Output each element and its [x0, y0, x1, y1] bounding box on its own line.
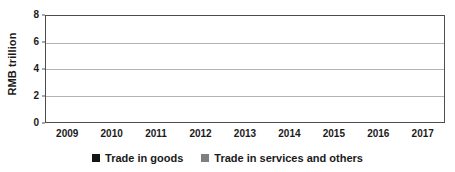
legend-item-trade-in-goods[interactable]: Trade in goods	[92, 152, 183, 164]
y-axis-ticks: 8 6 4 2 0	[24, 15, 42, 123]
bar-group-2013	[223, 16, 267, 122]
x-tick-label-2012: 2012	[178, 126, 222, 142]
y-tick-label-8: 8	[33, 10, 39, 20]
y-axis-title: RMB trillion	[6, 33, 18, 96]
x-tick-label-2015: 2015	[312, 126, 356, 142]
bar-group-2012	[179, 16, 223, 122]
bar-series-container	[46, 16, 444, 122]
bar-group-2014	[267, 16, 311, 122]
legend-item-trade-in-services-and-others[interactable]: Trade in services and others	[201, 152, 363, 164]
x-tick-label-2014: 2014	[267, 126, 311, 142]
y-tick-label-0: 0	[33, 118, 39, 128]
bar-group-2009	[46, 16, 90, 122]
y-tick-label-6: 6	[33, 37, 39, 47]
x-tick-label-2013: 2013	[223, 126, 267, 142]
legend-label-trade-in-services-and-others: Trade in services and others	[214, 152, 363, 164]
chart-legend: Trade in goods Trade in services and oth…	[0, 148, 455, 168]
bar-group-2015	[311, 16, 355, 122]
stacked-bar-chart: RMB trillion 8 6 4 2 0 20092010201120122…	[0, 0, 455, 172]
filled-square-icon	[92, 154, 100, 162]
x-axis-ticks: 200920102011201220132014201520162017	[45, 126, 445, 142]
x-tick-label-2011: 2011	[134, 126, 178, 142]
x-tick-label-2010: 2010	[89, 126, 133, 142]
bar-group-2017	[400, 16, 444, 122]
bar-group-2016	[356, 16, 400, 122]
x-tick-label-2009: 2009	[45, 126, 89, 142]
x-tick-label-2017: 2017	[401, 126, 445, 142]
y-tick-label-2: 2	[33, 91, 39, 101]
legend-label-trade-in-goods: Trade in goods	[105, 152, 183, 164]
plot-area	[45, 15, 445, 123]
y-axis-title-container: RMB trillion	[0, 0, 24, 128]
x-tick-label-2016: 2016	[356, 126, 400, 142]
bar-group-2011	[134, 16, 178, 122]
y-tick-label-4: 4	[33, 64, 39, 74]
filled-square-icon	[201, 154, 209, 162]
bar-group-2010	[90, 16, 134, 122]
